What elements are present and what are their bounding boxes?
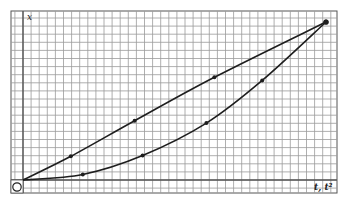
data-point [323,19,328,24]
origin-marker [13,183,21,191]
graph-paper-grid [11,11,337,193]
data-point [69,154,73,158]
data-point [212,75,216,79]
data-point [133,119,137,123]
data-point [141,154,145,158]
data-point [204,121,208,125]
x-axis-label: t, t² [314,183,333,192]
chart-canvas [0,0,346,205]
data-point [260,78,264,82]
data-point [81,172,85,176]
y-axis-label: x [27,13,32,22]
